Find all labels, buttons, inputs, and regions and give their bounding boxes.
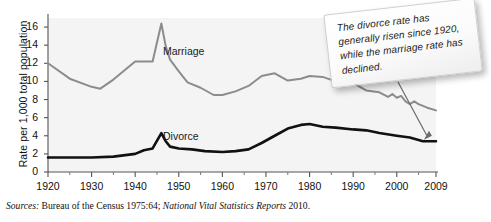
x-tick-label: 1980: [288, 180, 332, 192]
y-tick-label: 8: [16, 93, 38, 105]
source-note-part1: Bureau of the Census 1975:64;: [39, 200, 163, 211]
y-tick-label: 6: [16, 111, 38, 123]
y-tick-label: 2: [16, 147, 38, 159]
x-tick-label: 1950: [157, 180, 201, 192]
source-note-part2: 2010.: [286, 200, 310, 211]
y-tick-label: 14: [16, 38, 38, 50]
y-tick-label: 16: [16, 20, 38, 32]
source-note-lead: Sources:: [6, 200, 39, 211]
x-tick-label: 1970: [244, 180, 288, 192]
x-tick-label: 1960: [200, 180, 244, 192]
series-label-marriage: Marriage: [163, 45, 204, 57]
y-tick-label: 12: [16, 56, 38, 68]
y-tick-label: 0: [16, 165, 38, 177]
x-tick-label: 1940: [113, 180, 157, 192]
x-tick-label: 2000: [375, 180, 419, 192]
y-tick-label: 10: [16, 74, 38, 86]
x-tick-label: 1990: [331, 180, 375, 192]
annotation-callout-text: The divorce rate has generally risen sin…: [336, 7, 472, 78]
series-label-divorce: Divorce: [163, 130, 199, 142]
x-tick-label: 2009: [414, 180, 458, 192]
figure-marriage-divorce-rates: Rate per 1,000 total population Marriage…: [0, 0, 491, 222]
x-tick-label: 1920: [26, 180, 70, 192]
source-note: Sources: Bureau of the Census 1975:64; N…: [6, 200, 310, 211]
y-tick-label: 4: [16, 129, 38, 141]
x-tick-label: 1930: [70, 180, 114, 192]
source-note-publication: National Vital Statistics Reports: [163, 200, 286, 211]
